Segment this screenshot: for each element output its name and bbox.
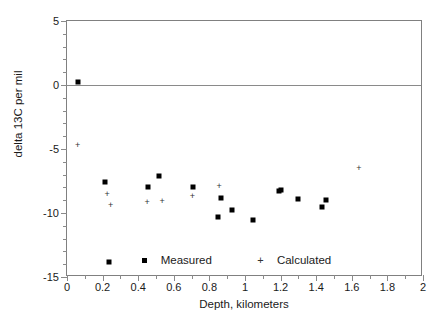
data-point-measured (156, 173, 161, 178)
x-axis-tick-label: 2 (420, 281, 426, 293)
plus-marker-icon: + (256, 256, 265, 265)
x-axis-title: Depth, kilometers (66, 298, 422, 310)
scatter-chart-figure: 50-5-10-15 00.20.40.60.811.21.41.61.82 M… (0, 0, 438, 324)
y-axis-tick-minor (63, 111, 67, 112)
y-axis-tick-minor (63, 239, 67, 240)
x-axis-tick-label: 0 (64, 281, 70, 293)
data-point-measured (229, 208, 234, 213)
data-point-calculated (107, 202, 114, 209)
data-point-measured (75, 80, 80, 85)
y-axis-tick-minor (63, 187, 67, 188)
y-axis-tick-minor (63, 200, 67, 201)
x-axis-tick-label: 0.8 (202, 281, 217, 293)
x-axis-tick-label: 1.2 (273, 281, 288, 293)
x-axis-tick-label: 1.6 (344, 281, 359, 293)
data-point-measured (145, 185, 150, 190)
x-axis-tick-minor (334, 275, 335, 279)
y-axis-tick-minor (63, 34, 67, 35)
data-point-measured (323, 198, 328, 203)
data-point-measured (216, 215, 221, 220)
data-point-measured (218, 195, 223, 200)
data-point-measured (191, 185, 196, 190)
y-axis-tick-major (61, 149, 67, 150)
x-axis-tick-minor (227, 275, 228, 279)
zero-reference-line (67, 85, 421, 86)
data-point-measured (320, 205, 325, 210)
data-point-calculated (159, 198, 166, 205)
data-point-measured (251, 218, 256, 223)
y-axis-tick-label: 5 (53, 15, 59, 27)
x-axis-tick-minor (120, 275, 121, 279)
y-axis-tick-minor (63, 98, 67, 99)
y-axis-tick-label: -5 (49, 143, 59, 155)
data-point-calculated (189, 193, 196, 200)
legend-entry-measured: Measured (142, 254, 212, 266)
square-marker-icon (142, 258, 147, 263)
y-axis-tick-label: -10 (43, 207, 59, 219)
y-axis-title: delta 13C per mil (12, 34, 24, 194)
x-axis-tick-label: 0.2 (95, 281, 110, 293)
y-axis-tick-minor (63, 72, 67, 73)
y-axis-tick-minor (63, 47, 67, 48)
data-point-calculated (144, 199, 151, 206)
data-point-measured (279, 187, 284, 192)
chart-legend: Measured + Calculated (142, 254, 331, 266)
legend-entry-calculated: + Calculated (256, 254, 331, 266)
data-point-measured (103, 180, 108, 185)
x-axis-tick-minor (192, 275, 193, 279)
x-axis-tick-label: 1 (242, 281, 248, 293)
y-axis-tick-label: 0 (53, 79, 59, 91)
plot-area: 50-5-10-15 00.20.40.60.811.21.41.61.82 M… (66, 20, 422, 276)
x-axis-tick-minor (263, 275, 264, 279)
y-axis-tick-minor (63, 226, 67, 227)
data-point-measured (296, 196, 301, 201)
x-axis-tick-minor (370, 275, 371, 279)
x-axis-tick-label: 1.8 (380, 281, 395, 293)
x-axis-tick-label: 1.4 (309, 281, 324, 293)
data-point-measured (106, 259, 111, 264)
y-axis-tick-minor (63, 264, 67, 265)
x-axis-tick-minor (298, 275, 299, 279)
y-axis-tick-minor (63, 136, 67, 137)
data-point-calculated (74, 141, 81, 148)
x-axis-tick-label: 0.6 (166, 281, 181, 293)
data-point-calculated (104, 190, 111, 197)
y-axis-tick-label: -15 (43, 271, 59, 283)
x-axis-tick-minor (85, 275, 86, 279)
y-axis-tick-major (61, 85, 67, 86)
x-axis-tick-label: 0.4 (131, 281, 146, 293)
y-axis-tick-minor (63, 175, 67, 176)
y-axis-tick-minor (63, 59, 67, 60)
x-axis-tick-minor (156, 275, 157, 279)
y-axis-tick-major (61, 213, 67, 214)
legend-label-measured: Measured (161, 254, 212, 266)
y-axis-tick-major (61, 21, 67, 22)
legend-label-calculated: Calculated (277, 254, 331, 266)
data-point-calculated (216, 183, 223, 190)
data-point-calculated (355, 164, 362, 171)
y-axis-tick-minor (63, 162, 67, 163)
y-axis-tick-minor (63, 123, 67, 124)
y-axis-tick-minor (63, 251, 67, 252)
x-axis-tick-minor (405, 275, 406, 279)
